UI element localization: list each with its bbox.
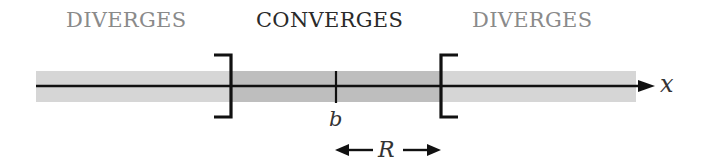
- region-label-diverges-right: DIVERGES: [472, 8, 592, 32]
- x-axis-label: x: [660, 70, 674, 98]
- region-label-converges: CONVERGES: [256, 8, 403, 32]
- convergence-interval-diagram: DIVERGES CONVERGES DIVERGES x b R: [0, 0, 705, 168]
- center-label-b: b: [329, 107, 342, 131]
- radius-label-r: R: [378, 137, 395, 162]
- x-axis-arrowhead-icon: [638, 80, 655, 92]
- radius-arrow-left-icon: [335, 144, 349, 156]
- radius-arrow-right-icon: [427, 144, 441, 156]
- region-label-diverges-left: DIVERGES: [66, 8, 186, 32]
